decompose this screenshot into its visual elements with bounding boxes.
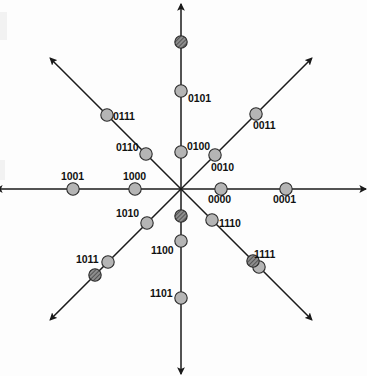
axis-ray-315deg [181,189,312,320]
point-label-0001: 0001 [273,194,296,205]
point-label-1010: 1010 [116,208,139,219]
point-label-0100: 0100 [187,141,210,152]
point-label-1101: 1101 [150,288,172,299]
point-label-0110: 0110 [116,142,138,153]
point-label-0010: 0010 [211,162,234,173]
point-label-1000: 1000 [123,171,146,182]
constellation-point-0100[interactable] [175,146,187,158]
point-label-0111: 0111 [113,111,135,122]
point-label-1100: 1100 [151,245,173,256]
constellation-point-1000[interactable] [129,183,141,195]
point-label-1110: 1110 [219,218,241,229]
constellation-point-unlabeled-5[interactable] [175,36,187,48]
point-label-1001: 1001 [61,171,84,182]
figure-canvas: 0001000000110010010101000111011010011000… [0,0,367,376]
point-label-1011: 1011 [76,254,98,265]
point-label-1111: 1111 [254,249,275,260]
axis-ray-45deg [181,58,312,189]
constellation-point-1101[interactable] [175,292,187,304]
constellation-point-0101[interactable] [175,85,187,97]
constellation-point-1100[interactable] [175,235,187,247]
constellation-plot [0,0,367,376]
constellation-point-unlabeled-12[interactable] [89,269,101,281]
axis-rays [0,4,366,374]
constellation-point-unlabeled-16[interactable] [175,210,187,222]
point-label-0101: 0101 [188,93,211,104]
constellation-points [67,36,292,304]
constellation-point-1010[interactable] [141,217,153,229]
constellation-point-1001[interactable] [67,183,79,195]
constellation-point-0010[interactable] [209,149,221,161]
constellation-point-1011[interactable] [102,256,114,268]
point-label-0011: 0011 [253,120,275,131]
constellation-point-0110[interactable] [140,148,152,160]
constellation-point-0111[interactable] [101,109,113,121]
point-label-0000: 0000 [208,194,231,205]
constellation-point-1110[interactable] [206,214,218,226]
